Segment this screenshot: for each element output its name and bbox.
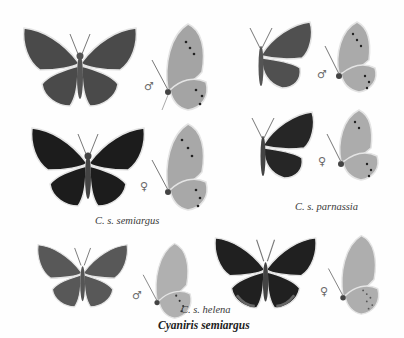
- butterfly-semiargus-male-upperside: [18, 22, 143, 110]
- butterfly-helena-female-underside: [326, 232, 382, 316]
- wing: [262, 22, 312, 59]
- plate-title: Cyaniris semiargus: [158, 319, 250, 331]
- butterfly-parnassia-female-upperside: [250, 108, 320, 180]
- butterfly-semiargus-female-upperside: [26, 122, 151, 210]
- wing: [42, 66, 78, 106]
- wing: [82, 66, 118, 106]
- wing: [52, 275, 81, 307]
- wing: [215, 238, 264, 276]
- wing: [38, 245, 81, 278]
- caption-parnassia: C. s. parnassia: [295, 201, 358, 212]
- wing: [264, 112, 314, 149]
- wing: [267, 272, 299, 308]
- caption-helena: C. s. helena: [181, 304, 231, 315]
- butterfly-semiargus-male-underside: [150, 20, 210, 112]
- butterfly-helena-male-upperside: [32, 240, 134, 310]
- wing: [262, 58, 300, 88]
- wing: [267, 238, 316, 276]
- butterfly-parnassia-female-underside: [325, 106, 385, 182]
- wing: [232, 272, 264, 308]
- female-symbol: ♀: [140, 180, 148, 193]
- wing: [84, 245, 127, 278]
- butterfly-semiargus-female-underside: [150, 120, 210, 212]
- illustration-plate: ♂ ♀ C. s. semiargus ♂: [0, 0, 404, 338]
- caption-semiargus: C. s. semiargus: [95, 215, 159, 226]
- wing: [264, 148, 302, 178]
- wing: [50, 166, 86, 206]
- butterfly-parnassia-male-upperside: [248, 18, 318, 90]
- butterfly-parnassia-male-underside: [323, 18, 383, 94]
- wing: [90, 166, 126, 206]
- wing: [84, 275, 113, 307]
- butterfly-helena-female-upperside: [210, 232, 322, 312]
